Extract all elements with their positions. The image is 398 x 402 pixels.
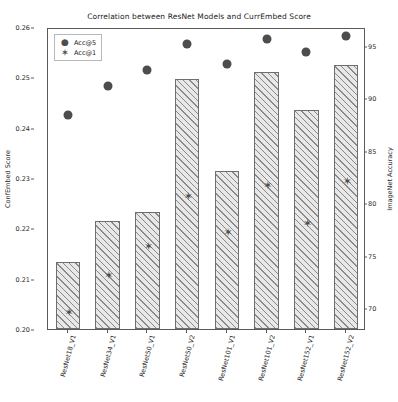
x-tick-label-ResNet34_V1: ResNet34_V1	[99, 334, 118, 378]
bar-ResNet152_V2	[334, 65, 359, 329]
tick-mark	[31, 229, 34, 230]
acc1-marker-ResNet101_V2	[263, 181, 270, 190]
acc1-marker-ResNet50_V2	[184, 191, 191, 200]
chart-title: Correlation between ResNet Models and Cu…	[0, 12, 398, 21]
acc1-marker-ResNet34_V1	[104, 271, 111, 280]
tick-mark	[31, 179, 34, 180]
acc5-marker-ResNet101_V2	[262, 35, 271, 44]
x-tick-mark-ResNet50_V1	[146, 330, 147, 333]
y-tick-left-0.21: 0.21	[16, 276, 30, 284]
x-tick-mark-ResNet101_V2	[266, 330, 267, 333]
plot-area	[47, 28, 365, 330]
x-tick-label-ResNet152_V2: ResNet152_V2	[336, 334, 356, 382]
y-tick-right-85: 85	[368, 148, 376, 156]
x-tick-mark-ResNet50_V2	[186, 330, 187, 333]
x-tick-mark-ResNet152_V2	[345, 330, 346, 333]
acc5-marker-ResNet101_V1	[222, 59, 231, 68]
legend-item-acc5: ● Acc@5	[58, 38, 96, 47]
y-tick-right-80: 80	[368, 200, 376, 208]
y-axis-label-right: ImageNet Accuracy	[386, 147, 394, 211]
acc5-marker-ResNet50_V1	[143, 65, 152, 74]
plot-inner	[48, 29, 364, 329]
x-tick-label-ResNet152_V1: ResNet152_V1	[296, 334, 316, 382]
x-tick-label-ResNet101_V2: ResNet101_V2	[257, 334, 277, 382]
y-tick-left-0.25: 0.25	[16, 74, 30, 82]
x-tick-mark-ResNet18_V1	[67, 330, 68, 333]
legend-label-acc5: Acc@5	[74, 39, 96, 47]
tick-mark	[31, 330, 34, 331]
tick-mark	[31, 279, 34, 280]
acc5-marker-ResNet18_V1	[63, 110, 72, 119]
acc1-marker-ResNet152_V1	[303, 218, 310, 227]
x-tick-label-ResNet101_V1: ResNet101_V1	[217, 334, 237, 382]
y-tick-left-0.24: 0.24	[16, 125, 30, 133]
bar-ResNet50_V2	[175, 79, 200, 329]
bar-ResNet101_V2	[254, 72, 279, 329]
acc5-marker-ResNet50_V2	[183, 39, 192, 48]
y-tick-right-90: 90	[368, 95, 376, 103]
tick-mark	[31, 28, 34, 29]
x-tick-mark-ResNet101_V1	[226, 330, 227, 333]
y-tick-right-75: 75	[368, 253, 376, 261]
y-tick-left-0.23: 0.23	[16, 175, 30, 183]
y-tick-left-0.22: 0.22	[16, 225, 30, 233]
bar-ResNet18_V1	[56, 262, 81, 329]
acc5-marker-ResNet34_V1	[103, 81, 112, 90]
acc1-marker-ResNet18_V1	[64, 308, 71, 317]
acc5-marker-ResNet152_V1	[302, 48, 311, 57]
bar-ResNet101_V1	[215, 171, 240, 329]
chart-legend: ● Acc@5 ✶ Acc@1	[54, 34, 102, 61]
star-marker-icon: ✶	[58, 48, 72, 57]
x-tick-label-ResNet50_V2: ResNet50_V2	[178, 334, 197, 378]
acc1-marker-ResNet152_V2	[343, 177, 350, 186]
y-tick-right-95: 95	[368, 43, 376, 51]
acc5-marker-ResNet152_V2	[342, 32, 351, 41]
bar-ResNet50_V1	[135, 212, 160, 329]
tick-mark	[31, 78, 34, 79]
legend-label-acc1: Acc@1	[74, 49, 96, 57]
x-tick-label-ResNet50_V1: ResNet50_V1	[138, 334, 157, 378]
x-tick-mark-ResNet34_V1	[107, 330, 108, 333]
chart-figure: Correlation between ResNet Models and Cu…	[0, 0, 398, 402]
x-tick-mark-ResNet152_V1	[305, 330, 306, 333]
tick-mark	[31, 128, 34, 129]
y-tick-left-0.26: 0.26	[16, 24, 30, 32]
circle-marker-icon: ●	[58, 38, 72, 47]
y-tick-left-0.20: 0.20	[16, 326, 30, 334]
x-tick-label-ResNet18_V1: ResNet18_V1	[59, 334, 78, 378]
acc1-marker-ResNet50_V1	[144, 242, 151, 251]
legend-item-acc1: ✶ Acc@1	[58, 48, 96, 57]
y-tick-right-70: 70	[368, 305, 376, 313]
acc1-marker-ResNet101_V1	[223, 228, 230, 237]
y-axis-label-left: ConfEmbed Score	[4, 150, 12, 208]
